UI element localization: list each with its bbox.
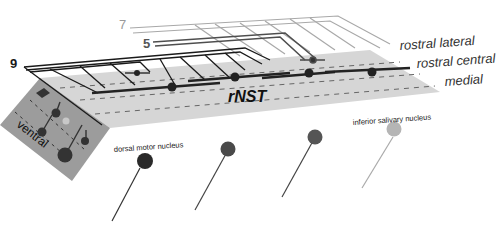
subdivision-rostral-lateral: rostral lateral <box>399 33 476 53</box>
nucleus-node-3 <box>308 130 323 145</box>
nerve-7-projections <box>130 16 390 56</box>
nucleus-node-2 <box>221 142 236 157</box>
dorsal-motor-nucleus-label: dorsal motor nucleus <box>114 140 184 154</box>
nerve-label-9: 9 <box>10 56 17 71</box>
subdivision-rostral-central: rostral central <box>416 50 497 71</box>
rnst-diagram: 7 5 9 rNST rostral lateral rostral centr… <box>0 0 500 230</box>
nerve-label-5: 5 <box>143 36 150 51</box>
dorsal-motor-nucleus-node <box>137 153 153 169</box>
nerve-9-small-node <box>134 70 140 76</box>
nerve-label-7: 7 <box>119 17 126 32</box>
rnst-title: rNST <box>228 88 267 105</box>
subdivision-medial: medial <box>444 71 484 89</box>
